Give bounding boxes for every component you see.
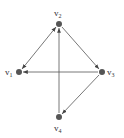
- label-v3: v3: [107, 67, 115, 78]
- node-v1: [16, 69, 22, 75]
- edge-v1-v2: [22, 27, 56, 69]
- node-v4: [56, 114, 62, 120]
- edge-v3-v4: [62, 75, 99, 114]
- label-v2: v2: [54, 8, 62, 19]
- label-v4: v4: [54, 123, 62, 134]
- label-v1: v1: [5, 67, 13, 78]
- edge-v2-v3: [62, 27, 99, 69]
- graph-canvas: v1 v2 v3 v4: [0, 0, 124, 138]
- node-v3: [99, 69, 105, 75]
- node-v2: [56, 21, 62, 27]
